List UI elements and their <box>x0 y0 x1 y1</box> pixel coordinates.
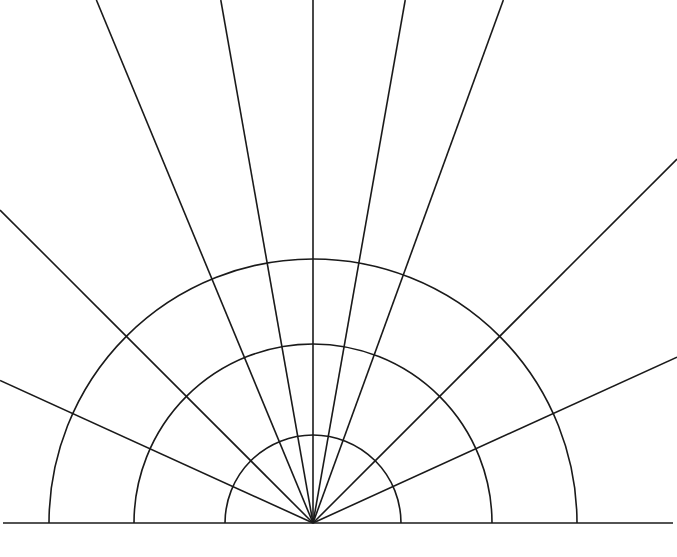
polar-grid-figure <box>0 0 677 557</box>
figure-background <box>0 0 677 557</box>
polar-grid-canvas <box>0 0 677 557</box>
